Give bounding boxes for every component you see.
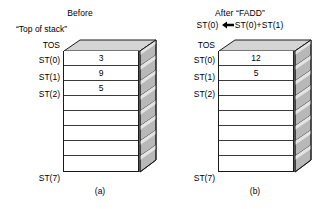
stack-side-face bbox=[294, 39, 311, 173]
row-label-st2: ST(2) bbox=[194, 87, 215, 102]
stack-cell-st1: 5 bbox=[219, 66, 293, 81]
row-label-st7: ST(7) bbox=[194, 171, 215, 186]
fpu-register-stack-figure: Before “Top of stack” TOS ST(0) ST(1) ST… bbox=[0, 0, 315, 209]
row-label-st1: ST(1) bbox=[39, 70, 60, 85]
caption-b: (b) bbox=[210, 186, 300, 196]
expression-source: ST(0)+ST(1) bbox=[235, 20, 284, 30]
panel-before: Before “Top of stack” TOS ST(0) ST(1) ST… bbox=[0, 0, 160, 209]
stack-side-face bbox=[139, 39, 156, 173]
stack-cell-4 bbox=[219, 111, 293, 126]
stack-cell-5 bbox=[64, 126, 138, 141]
left-arrow-icon bbox=[222, 21, 234, 29]
stack-cell-st7 bbox=[64, 156, 138, 171]
stack-cell-st2 bbox=[219, 81, 293, 96]
row-label-st0: ST(0) bbox=[39, 53, 60, 68]
fadd-expression: ST(0) ST(0)+ST(1) bbox=[175, 20, 305, 30]
panel-after-title: After “FADD” bbox=[175, 8, 305, 18]
stack-cell-3 bbox=[219, 96, 293, 111]
stack-cell-6 bbox=[219, 141, 293, 156]
top-of-stack-note: “Top of stack” bbox=[16, 24, 67, 34]
stack-cell-6 bbox=[64, 141, 138, 156]
stack-cell-st1: 9 bbox=[64, 66, 138, 81]
panel-before-title: Before bbox=[22, 8, 138, 18]
stack-cell-st7 bbox=[219, 156, 293, 171]
caption-a: (a) bbox=[55, 186, 145, 196]
stack-front-face: 3 9 5 bbox=[63, 51, 139, 172]
row-label-st1: ST(1) bbox=[194, 70, 215, 85]
stack-cell-st0: 3 bbox=[64, 51, 138, 66]
stack-cell-5 bbox=[219, 126, 293, 141]
stack-cell-st0: 12 bbox=[219, 51, 293, 66]
stack-cell-3 bbox=[64, 96, 138, 111]
stack-cell-st2: 5 bbox=[64, 81, 138, 96]
tos-label: TOS bbox=[43, 40, 60, 51]
expression-destination: ST(0) bbox=[197, 20, 219, 30]
stack-cell-4 bbox=[64, 111, 138, 126]
tos-label: TOS bbox=[198, 40, 215, 51]
row-label-st2: ST(2) bbox=[39, 87, 60, 102]
row-label-st0: ST(0) bbox=[194, 53, 215, 68]
panel-after: After “FADD” ST(0) ST(0)+ST(1) TOS ST(0)… bbox=[155, 0, 315, 209]
stack-front-face: 12 5 bbox=[218, 51, 294, 172]
row-label-st7: ST(7) bbox=[39, 171, 60, 186]
